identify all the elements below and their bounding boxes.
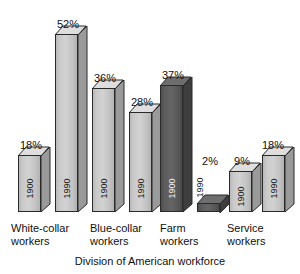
bar-value-label-farm-1990: 2% [196,156,224,167]
bar-white-collar-1900: 1900 [18,155,41,212]
bar-side-face-shape [251,162,262,213]
bar-value-label-service-1900: 9% [228,156,256,167]
bar-side-face-shape [182,76,193,213]
category-label-farm: Farm workers [160,222,199,248]
bar-farm-1990 [197,203,220,212]
bar-value-label-service-1990: 18% [259,140,287,151]
bar-white-collar-1990: 1990 [55,34,78,212]
category-label-line1: White-collar [11,222,69,235]
bar-year-label: 1990 [137,174,146,204]
category-label-line1: Blue-collar [90,222,142,235]
bar-service-1990: 1990 [262,155,285,212]
bar-front-face [197,203,220,212]
category-label-line2: workers [11,235,69,248]
bar-value-label-blue-collar-1990: 28% [128,97,156,108]
bar-year-label: 1900 [26,174,35,204]
axis-title: Division of American workforce [0,255,300,268]
bar-year-label: 1990 [270,174,279,204]
bar-value-label-farm-1900: 37% [159,70,187,81]
plot-area: 1900 18% 1990 52% 1900 36% [0,0,300,216]
category-label-white-collar: White-collar workers [11,222,69,248]
bar-value-label-white-collar-1900: 18% [17,140,45,151]
category-label-blue-collar: Blue-collar workers [90,222,142,248]
category-label-line2: workers [90,235,142,248]
bar-blue-collar-1990: 1990 [129,112,152,212]
bar-year-label-farm-1990: 1990 [196,173,205,203]
bar-side-face-shape [114,79,125,213]
bar-side-face-shape [284,146,295,213]
bar-year-label: 1900 [168,174,177,204]
category-label-service: Service workers [227,222,266,248]
bar-blue-collar-1900: 1900 [92,88,115,212]
category-label-line1: Farm [160,222,199,235]
category-label-line2: workers [160,235,199,248]
bar-value-label-white-collar-1990: 52% [54,19,82,30]
category-label-line1: Service [227,222,266,235]
bar-chart: 1900 18% 1990 52% 1900 36% [0,0,300,274]
bar-side-face-shape [77,25,88,213]
bar-value-label-blue-collar-1900: 36% [91,73,119,84]
bar-year-label: 1900 [237,182,246,212]
bar-year-label: 1900 [100,174,109,204]
bar-farm-1900: 1900 [160,85,183,212]
bar-side-face-shape [40,146,51,213]
bar-year-label: 1990 [63,174,72,204]
category-label-line2: workers [227,235,266,248]
bar-service-1900: 1900 [229,171,252,212]
